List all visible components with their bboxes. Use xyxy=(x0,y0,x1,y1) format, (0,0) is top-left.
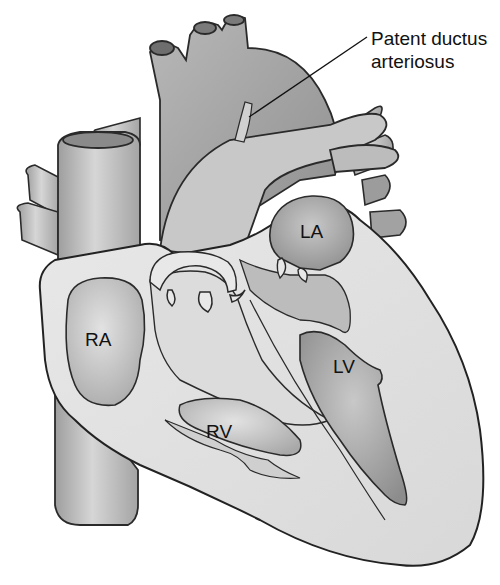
heart-diagram: Patent ductus arteriosus RA LA LV RV xyxy=(0,0,500,585)
heart-illustration xyxy=(0,0,500,585)
callout-patent-ductus-arteriosus: Patent ductus arteriosus xyxy=(371,27,487,73)
label-ra: RA xyxy=(85,330,111,349)
label-rv: RV xyxy=(206,422,232,441)
callout-line-2: arteriosus xyxy=(371,50,487,73)
label-lv: LV xyxy=(333,357,355,376)
callout-line-1: Patent ductus xyxy=(371,27,487,50)
label-la: LA xyxy=(300,222,323,241)
